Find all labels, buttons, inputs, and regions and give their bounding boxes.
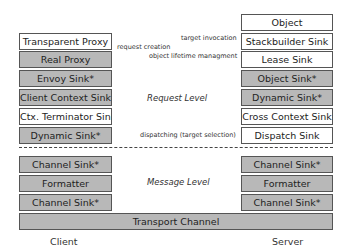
client-ctx-terminator-sink: Ctx. Terminator Sink <box>19 108 112 125</box>
annotation-object-lifetime: object lifetime managment <box>149 52 237 60</box>
level-divider <box>19 147 333 148</box>
server-cross-context-sink: Cross Context Sink <box>241 108 333 125</box>
transport-channel: Transport Channel <box>19 213 333 230</box>
server-dispatch-sink: Dispatch Sink <box>241 127 333 144</box>
annotation-dispatching: dispatching (target selection) <box>140 131 236 139</box>
client-formatter: Formatter <box>19 175 112 192</box>
server-dynamic-sink: Dynamic Sink* <box>241 89 333 106</box>
request-level-label: Request Level <box>147 93 207 103</box>
server-channel-sink-1: Channel Sink* <box>241 156 333 173</box>
client-transparent-proxy: Transparent Proxy <box>19 33 112 50</box>
annotation-request-creation: request creation <box>117 43 170 51</box>
client-label: Client <box>50 236 78 247</box>
client-real-proxy: Real Proxy <box>19 51 112 68</box>
client-channel-sink-1: Channel Sink* <box>19 156 112 173</box>
client-channel-sink-2: Channel Sink* <box>19 194 112 211</box>
server-object: Object <box>241 14 333 31</box>
server-channel-sink-2: Channel Sink* <box>241 194 333 211</box>
server-label: Server <box>272 236 303 247</box>
client-context-sink: Client Context Sink* <box>19 89 112 106</box>
client-dynamic-sink: Dynamic Sink* <box>19 127 112 144</box>
annotation-target-invocation: target invocation <box>181 34 237 42</box>
server-object-sink: Object Sink* <box>241 70 333 87</box>
client-envoy-sink: Envoy Sink* <box>19 70 112 87</box>
server-lease-sink: Lease Sink <box>241 51 333 68</box>
message-level-label: Message Level <box>147 177 210 187</box>
server-formatter: Formatter <box>241 175 333 192</box>
server-stackbuilder-sink: Stackbuilder Sink <box>241 33 333 50</box>
